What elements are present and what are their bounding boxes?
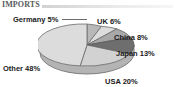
- pie-slices: [38, 24, 134, 66]
- pie-label-china: China 8%: [114, 33, 148, 42]
- pie-label-uk: UK 6%: [97, 17, 121, 26]
- pie-label-usa: USA 20%: [105, 77, 138, 86]
- pie-chart: Germany 5% UK 6% China 8% Japan 13% Othe…: [0, 11, 174, 87]
- header-divider: [42, 5, 173, 8]
- pie-label-germany: Germany 5%: [13, 15, 58, 24]
- pie-label-other: Other 48%: [3, 64, 40, 73]
- chart-screenshot: IMPORTS: [0, 0, 174, 87]
- pie-label-japan: Japan 13%: [116, 49, 155, 58]
- leader-line-germany: [62, 19, 87, 20]
- chart-header: IMPORTS: [0, 0, 174, 11]
- page-title: IMPORTS: [2, 0, 40, 9]
